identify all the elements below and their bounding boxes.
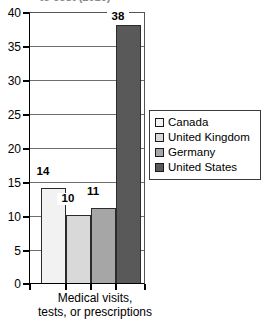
legend-label-germany: Germany	[168, 147, 215, 159]
bar-united-kingdom[interactable]	[66, 215, 91, 283]
legend: Canada United Kingdom Germany United Sta…	[149, 110, 261, 180]
y-tick-label-20: 20	[0, 143, 21, 155]
y-tick-label-40: 40	[0, 7, 21, 19]
bar-united-states[interactable]	[116, 25, 141, 283]
y-tick-label-35: 35	[0, 41, 21, 53]
bar-value-germany: 11	[82, 186, 104, 198]
legend-item-united-states[interactable]: United States	[155, 160, 256, 175]
legend-item-united-kingdom[interactable]: United Kingdom	[155, 130, 256, 145]
x-tick-4	[144, 284, 146, 290]
x-axis-label: Medical visits, tests, or prescriptions	[0, 291, 190, 319]
x-tick-1	[65, 284, 67, 290]
legend-swatch-canada	[155, 118, 164, 127]
x-axis-label-line2: tests, or prescriptions	[0, 305, 190, 319]
x-tick-3	[115, 284, 117, 290]
plot-area	[29, 12, 145, 284]
x-tick-0	[29, 284, 31, 290]
y-tick-label-0: 0	[0, 278, 21, 290]
legend-item-germany[interactable]: Germany	[155, 145, 256, 160]
legend-swatch-united-states	[155, 163, 164, 172]
x-axis-label-line1: Medical visits,	[0, 291, 190, 305]
legend-swatch-germany	[155, 148, 164, 157]
y-tick-label-5: 5	[0, 245, 21, 257]
x-tick-2	[90, 284, 92, 290]
y-tick-label-25: 25	[0, 109, 21, 121]
y-tick-label-10: 10	[0, 211, 21, 223]
legend-label-united-kingdom: United Kingdom	[168, 132, 250, 144]
bar-value-united-states: 38	[107, 11, 129, 23]
legend-label-canada: Canada	[168, 117, 208, 129]
legend-swatch-united-kingdom	[155, 133, 164, 142]
chart-title: to cost (2010)	[0, 0, 150, 3]
y-tick-label-15: 15	[0, 177, 21, 189]
bar-value-canada: 14	[32, 166, 54, 178]
bar-value-united-kingdom: 10	[57, 193, 79, 205]
y-tick-label-30: 30	[0, 75, 21, 87]
legend-label-united-states: United States	[168, 162, 237, 174]
bar-germany[interactable]	[91, 208, 116, 283]
legend-item-canada[interactable]: Canada	[155, 115, 256, 130]
